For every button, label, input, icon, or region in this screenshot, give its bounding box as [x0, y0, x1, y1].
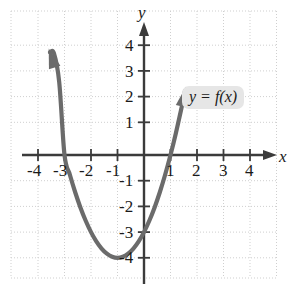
coordinate-plane	[0, 0, 289, 288]
y-tick-label-1: 1	[125, 114, 134, 131]
graph-figure: y x -4 -3 -2 -1 1 2 3 4 4 3 2 1 -1 -2 -3…	[0, 0, 289, 288]
x-axis	[22, 149, 277, 161]
x-tick-label--3: -3	[53, 162, 67, 179]
x-tick-label-3: 3	[219, 162, 228, 179]
x-tick-label-1: 1	[166, 162, 175, 179]
y-tick-label--2: -2	[119, 198, 133, 215]
y-tick-label--3: -3	[119, 224, 133, 241]
y-tick-label--4: -4	[119, 249, 133, 266]
y-tick-label-3: 3	[125, 63, 134, 80]
x-tick-label-4: 4	[245, 162, 254, 179]
x-tick-label--4: -4	[27, 162, 41, 179]
y-tick-label--1: -1	[119, 172, 133, 189]
x-tick-label-2: 2	[192, 162, 201, 179]
y-tick-label-2: 2	[125, 88, 134, 105]
x-tick-label--2: -2	[79, 162, 93, 179]
x-axis-label: x	[279, 148, 287, 165]
y-axis-label: y	[138, 4, 146, 21]
y-tick-label-4: 4	[125, 37, 134, 54]
y-axis	[138, 22, 150, 284]
curve-equation-label: y = f(x)	[182, 86, 244, 109]
